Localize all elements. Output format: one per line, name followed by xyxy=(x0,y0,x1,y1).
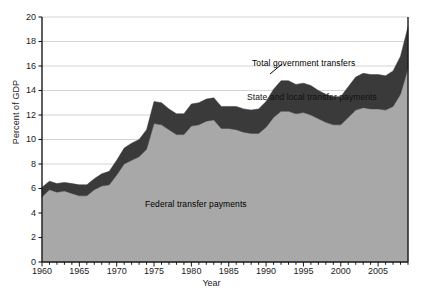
x-tick-label: 1990 xyxy=(246,266,286,276)
y-tick-label: 4 xyxy=(12,209,36,218)
x-tick-label: 1965 xyxy=(59,266,99,276)
x-tick-label: 1995 xyxy=(283,266,323,276)
x-tick-label: 2005 xyxy=(358,266,398,276)
x-tick-label: 1960 xyxy=(22,266,62,276)
y-tick-label: 18 xyxy=(12,37,36,46)
x-tick-label: 1980 xyxy=(171,266,211,276)
annotation-total-government-transfers: Total government transfers xyxy=(252,58,355,68)
x-tick-label: 1985 xyxy=(209,266,249,276)
x-tick-label: 1970 xyxy=(97,266,137,276)
y-tick-label: 2 xyxy=(12,233,36,242)
annotation-state-local-transfer-payments: State and local transfer payments xyxy=(247,92,377,102)
y-tick-label: 16 xyxy=(12,62,36,71)
annotation-federal-transfer-payments: Federal transfer payments xyxy=(145,199,247,209)
y-tick-label: 14 xyxy=(12,86,36,95)
y-tick-label: 8 xyxy=(12,160,36,169)
area-chart-plot xyxy=(0,0,423,293)
x-tick-label: 2000 xyxy=(321,266,361,276)
y-tick-label: 12 xyxy=(12,111,36,120)
x-axis-label: Year xyxy=(0,278,423,288)
y-tick-label: 10 xyxy=(12,135,36,144)
y-tick-label: 20 xyxy=(12,13,36,22)
chart-figure: Percent of GDP Year 02468101214161820 19… xyxy=(0,0,423,293)
x-tick-label: 1975 xyxy=(134,266,174,276)
y-tick-label: 6 xyxy=(12,184,36,193)
